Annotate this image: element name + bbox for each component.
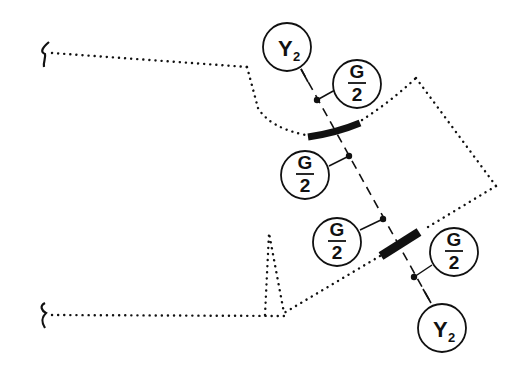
node-g2-mid-lower: G 2 [313, 218, 361, 266]
svg-text:G: G [298, 152, 313, 173]
lower-straight-bar [381, 232, 419, 256]
svg-text:2: 2 [449, 252, 460, 273]
node-g2-top: G 2 [333, 60, 381, 108]
svg-text:2: 2 [332, 242, 343, 263]
svg-text:G: G [350, 61, 365, 82]
break-symbol-bottom-left [42, 303, 46, 328]
svg-text:G: G [447, 229, 462, 250]
svg-text:2: 2 [293, 49, 300, 64]
element-outline [52, 53, 496, 316]
node-g2-right: G 2 [430, 228, 478, 276]
svg-text:Y: Y [433, 317, 448, 342]
break-symbol-top-left [42, 42, 49, 67]
node-g2-mid-left: G 2 [281, 151, 329, 199]
svg-text:2: 2 [300, 175, 311, 196]
node-y2-top: Y 2 [263, 23, 311, 71]
diagram-canvas: Y 2 G 2 G 2 G 2 G 2 Y 2 [0, 0, 525, 367]
svg-text:G: G [330, 219, 345, 240]
svg-text:2: 2 [352, 84, 363, 105]
svg-text:Y: Y [278, 36, 293, 61]
upper-curved-bar [308, 123, 360, 137]
node-y2-bottom: Y 2 [418, 304, 466, 352]
svg-text:2: 2 [448, 330, 455, 345]
